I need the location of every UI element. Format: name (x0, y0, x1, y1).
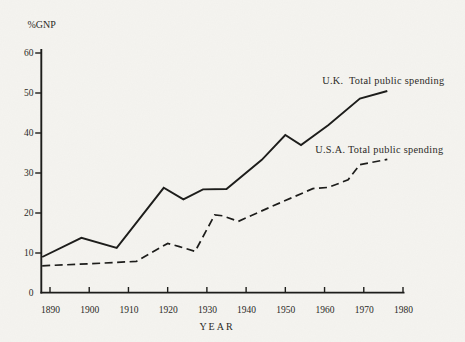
y-tick-label: 60 (24, 48, 34, 58)
y-tick-label: 40 (24, 128, 34, 138)
x-tick-label: 1930 (198, 305, 217, 315)
year-axis-title: YEAR (199, 321, 234, 332)
y-tick-label: 0 (29, 288, 34, 298)
x-tick-label: 1920 (159, 305, 178, 315)
gnp-axis-title: %GNP (28, 19, 57, 30)
y-tick-label: 50 (24, 88, 34, 98)
x-tick-label: 1950 (276, 305, 295, 315)
paper-grain-texture (0, 0, 465, 342)
x-tick-label: 1960 (316, 305, 335, 315)
x-tick-label: 1940 (237, 305, 256, 315)
chart-canvas: 0102030405060189019001910192019301940195… (0, 0, 465, 342)
x-tick-label: 1910 (119, 305, 138, 315)
chart-figure: 0102030405060189019001910192019301940195… (0, 0, 465, 342)
x-tick-label: 1890 (41, 305, 60, 315)
y-tick-label: 20 (24, 208, 34, 218)
x-tick-label: 1970 (355, 305, 374, 315)
y-tick-label: 10 (24, 248, 34, 258)
usa-label: U.S.A. Total public spending (315, 144, 443, 155)
y-tick-label: 30 (24, 168, 34, 178)
x-tick-label: 1980 (394, 305, 413, 315)
uk-label: U.K. Total public spending (322, 75, 444, 86)
x-tick-label: 1900 (80, 305, 99, 315)
